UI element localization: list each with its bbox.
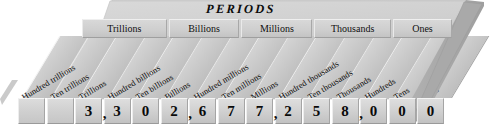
digit-group-comma: ,	[103, 105, 107, 122]
period-cell-thousands: Thousands	[314, 19, 391, 38]
period-cell-billions: Billions	[169, 19, 240, 38]
period-label: Thousands	[331, 23, 374, 34]
periods-title: PERIODS	[205, 2, 275, 17]
digit-cell	[47, 98, 74, 124]
digit-value: 0	[370, 103, 378, 120]
period-label: Millions	[260, 23, 294, 34]
digit-group-comma: ,	[274, 105, 278, 122]
digit-group-comma: ,	[359, 105, 363, 122]
digit-value: 5	[313, 103, 321, 120]
period-cell-ones: Ones	[393, 19, 452, 38]
period-label: Trillions	[107, 23, 141, 34]
period-cell-millions: Millions	[241, 19, 312, 38]
period-label: Ones	[412, 23, 433, 34]
digit-row: 3,302,677,258,000	[18, 98, 446, 124]
digit-value: 0	[398, 103, 406, 120]
digit-cell: 0	[389, 98, 416, 124]
digit-value: 7	[256, 103, 264, 120]
digit-group-comma: ,	[188, 105, 192, 122]
digit-cell: 3,	[75, 98, 102, 124]
digit-cell: 0	[360, 98, 387, 124]
digit-cell: 2,	[161, 98, 188, 124]
digit-cell: 7,	[246, 98, 273, 124]
digit-value: 0	[142, 103, 150, 120]
digit-value: 2	[284, 103, 292, 120]
digit-value: 7	[227, 103, 235, 120]
digit-cell: 7	[218, 98, 245, 124]
digit-cell	[18, 98, 45, 124]
digit-value: 0	[427, 103, 435, 120]
period-header-row: TrillionsBillionsMillionsThousandsOnes	[82, 19, 454, 38]
digit-value: 2	[170, 103, 178, 120]
digit-cell: 0	[132, 98, 159, 124]
digit-value: 3	[113, 103, 121, 120]
digit-cell: 5	[303, 98, 330, 124]
digit-cell: 0	[417, 98, 444, 124]
digit-value: 8	[341, 103, 349, 120]
digit-cell: 8,	[332, 98, 359, 124]
digit-value: 3	[85, 103, 93, 120]
period-label: Billions	[188, 23, 220, 34]
periods-banner: PERIODS	[78, 1, 403, 18]
period-cell-trillions: Trillions	[82, 19, 167, 38]
digit-value: 6	[199, 103, 207, 120]
digit-cell: 2	[275, 98, 302, 124]
digit-cell: 3	[104, 98, 131, 124]
digit-cell: 6	[189, 98, 216, 124]
